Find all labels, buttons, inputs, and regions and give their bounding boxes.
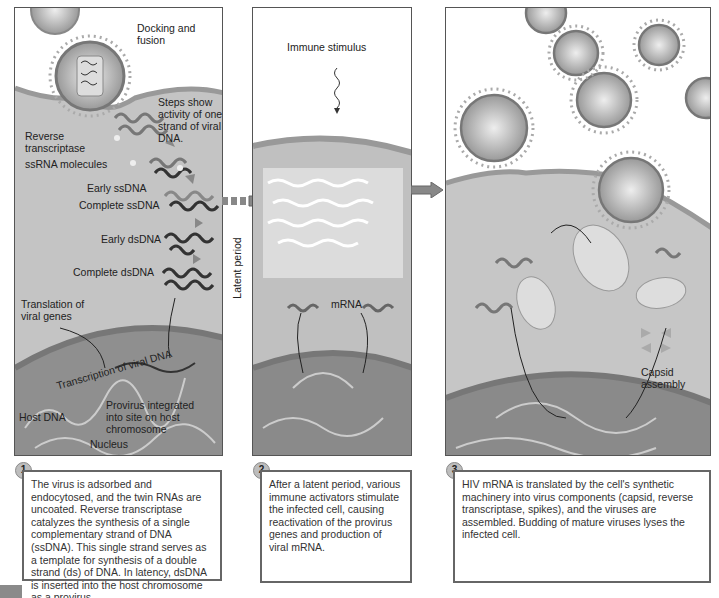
media-icon[interactable] — [0, 585, 22, 598]
label-steps: Steps show activity of one strand of vir… — [158, 96, 223, 144]
label-early-dsdna: Early dsDNA — [101, 233, 161, 245]
panel-infection: Docking and fusion Steps show activity o… — [14, 7, 223, 456]
caption-step-3: HIV mRNA is translated by the cell's syn… — [453, 470, 711, 583]
label-docking: Docking and fusion — [137, 22, 217, 46]
label-immune-stimulus: Immune stimulus — [287, 41, 366, 53]
panel-activation: Immune stimulus mRNA — [252, 7, 412, 456]
label-provirus: Provirus integrated into site on host ch… — [106, 399, 198, 435]
arrow-right-icon — [411, 182, 445, 202]
activation-illustration — [253, 8, 412, 456]
label-ssrna: ssRNA molecules — [25, 158, 107, 170]
caption-step-1: The virus is adsorbed and endocytosed, a… — [22, 470, 222, 581]
panel-assembly: Capsid assembly — [445, 7, 711, 456]
label-capsid-assembly: Capsid assembly — [641, 366, 701, 390]
label-complete-dsdna: Complete dsDNA — [73, 266, 154, 278]
infection-illustration — [15, 8, 223, 456]
latent-period-label: Latent period — [222, 218, 252, 318]
caption-step-2: After a latent period, various immune ac… — [260, 470, 412, 583]
label-complete-ssdna: Complete ssDNA — [79, 199, 160, 211]
label-nucleus: Nucleus — [90, 438, 128, 450]
label-translation: Translation of viral genes — [21, 298, 101, 322]
label-mrna: mRNA — [331, 298, 362, 310]
label-reverse-transcriptase: Reverse transcriptase — [25, 130, 95, 154]
label-early-ssdna: Early ssDNA — [87, 182, 147, 194]
label-host-dna: Host DNA — [19, 411, 66, 423]
